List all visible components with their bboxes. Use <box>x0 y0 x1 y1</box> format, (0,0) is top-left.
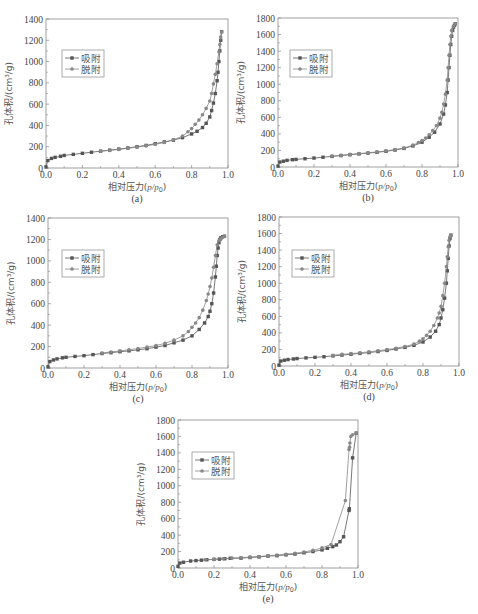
y-tick-label: 1000 <box>156 481 175 491</box>
legend-adsorption-label: 吸附 <box>211 455 231 466</box>
y-tick-label: 1200 <box>156 465 175 475</box>
legend: 吸附脱附 <box>192 452 234 479</box>
y-tick-label: 800 <box>161 498 176 508</box>
y-axis-title: 孔体积/(cm³/g) <box>135 462 146 525</box>
legend-desorption-label: 脱附 <box>211 466 231 477</box>
x-tick-label: 0.4 <box>244 570 256 580</box>
series-desorption <box>203 431 358 561</box>
y-tick-label: 400 <box>161 531 176 541</box>
x-tick-label: 1.0 <box>352 570 364 580</box>
y-tick-label: 1600 <box>156 432 175 442</box>
y-tick-label: 1800 <box>156 416 175 426</box>
x-tick-label: 0.8 <box>316 570 328 580</box>
y-tick-label: 1400 <box>156 448 175 458</box>
chart-e-svg: 0200400600800100012001400160018000.00.20… <box>0 0 478 614</box>
subplot-e: 0200400600800100012001400160018000.00.20… <box>0 0 478 614</box>
x-tick-label: 0.2 <box>208 570 220 580</box>
y-tick-label: 200 <box>161 547 176 557</box>
x-tick-label: 0.6 <box>280 570 292 580</box>
x-tick-label: 0.0 <box>172 570 184 580</box>
y-tick-label: 600 <box>161 514 176 524</box>
subplot-label: (e) <box>262 593 273 605</box>
